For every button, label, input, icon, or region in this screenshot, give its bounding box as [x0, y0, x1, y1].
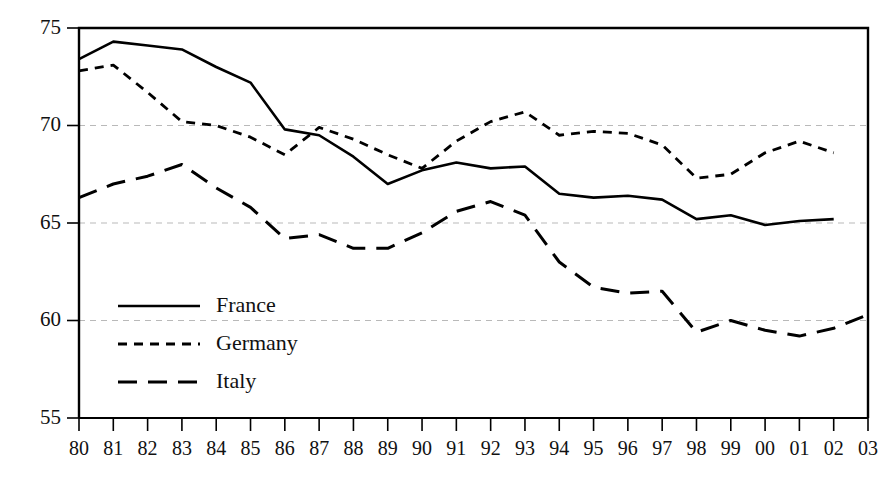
x-tick-label-97: 97: [652, 437, 672, 459]
x-tick-label-91: 91: [446, 437, 466, 459]
x-tick-label-92: 92: [481, 437, 501, 459]
y-axis-tick-labels: 7570656055: [40, 15, 61, 429]
x-tick-label-88: 88: [343, 437, 363, 459]
x-axis-tick-labels: 8081828384858687888990919293949596979899…: [69, 437, 878, 459]
x-tick-label-86: 86: [275, 437, 295, 459]
x-tick-marks: [79, 418, 868, 431]
chart-canvas: 7570656055 80818283848586878889909192939…: [0, 0, 896, 485]
x-tick-label-01: 01: [789, 437, 809, 459]
y-tick-label-60: 60: [40, 307, 61, 331]
plot-border: [79, 28, 868, 418]
chart-page: 7570656055 80818283848586878889909192939…: [0, 0, 896, 485]
x-tick-label-83: 83: [172, 437, 192, 459]
x-tick-label-94: 94: [549, 437, 569, 459]
x-tick-label-00: 00: [755, 437, 775, 459]
x-tick-label-89: 89: [378, 437, 398, 459]
chart-legend: FranceGermanyItaly: [118, 292, 298, 393]
x-tick-label-85: 85: [241, 437, 261, 459]
y-tick-label-65: 65: [40, 210, 61, 234]
x-tick-label-03: 03: [858, 437, 878, 459]
x-tick-label-90: 90: [412, 437, 432, 459]
x-tick-label-99: 99: [721, 437, 741, 459]
gridlines-group: [79, 28, 868, 418]
x-tick-label-84: 84: [206, 437, 226, 459]
x-tick-label-87: 87: [309, 437, 329, 459]
y-tick-label-75: 75: [40, 15, 61, 39]
plot-frame: [79, 28, 868, 418]
x-tick-label-93: 93: [515, 437, 535, 459]
x-tick-label-80: 80: [69, 437, 89, 459]
y-tick-marks: [67, 28, 79, 418]
line-chart: 7570656055 80818283848586878889909192939…: [0, 0, 896, 485]
x-tick-label-96: 96: [618, 437, 638, 459]
legend-label-france: France: [216, 292, 276, 317]
series-line-germany: [79, 65, 834, 178]
x-tick-label-98: 98: [686, 437, 706, 459]
series-line-france: [79, 42, 834, 225]
x-tick-label-82: 82: [138, 437, 158, 459]
y-tick-label-55: 55: [40, 405, 61, 429]
x-tick-label-95: 95: [584, 437, 604, 459]
legend-label-germany: Germany: [216, 330, 298, 355]
series-line-italy: [79, 165, 868, 337]
legend-label-italy: Italy: [216, 368, 256, 393]
x-tick-label-02: 02: [824, 437, 844, 459]
x-tick-label-81: 81: [103, 437, 123, 459]
data-series-group: [79, 42, 868, 336]
y-tick-label-70: 70: [40, 112, 61, 136]
